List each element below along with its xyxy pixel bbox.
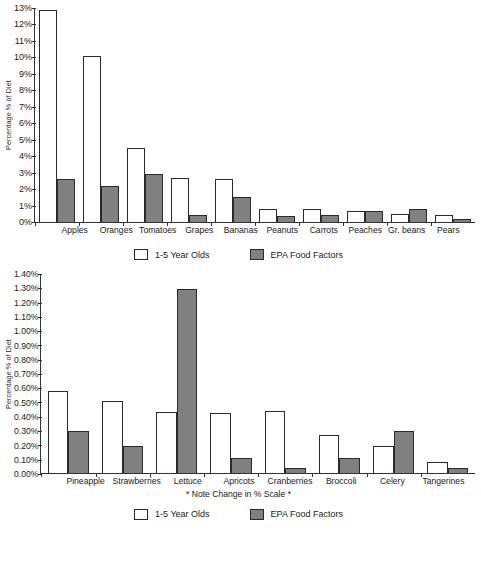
x-tick-label: Peanuts xyxy=(262,226,304,235)
scale-change-footnote: * Note Change in % Scale * xyxy=(2,489,475,499)
plot-area-top xyxy=(34,8,475,223)
bar-light xyxy=(102,401,123,473)
bar-dark xyxy=(409,209,427,222)
bar-light xyxy=(171,178,189,222)
bar-light xyxy=(303,209,321,222)
x-tick-label: Strawberries xyxy=(111,477,162,486)
x-tick-label: Gr. beans xyxy=(386,226,428,235)
bar-group xyxy=(387,8,431,222)
legend-item-light-top: 1-5 Year Olds xyxy=(134,249,210,260)
bar-group xyxy=(211,8,255,222)
x-axis-labels-top: ApplesOrangesTomatoesGrapesBananasPeanut… xyxy=(54,223,469,235)
bar-group xyxy=(96,274,150,473)
bar-light xyxy=(215,179,233,222)
bar-group xyxy=(79,8,123,222)
bar-group xyxy=(255,8,299,222)
bar-dark xyxy=(339,458,360,474)
chart-bottom-percentage-of-diet: Percentage % of Diet 1.40%1.30%1.20%1.10… xyxy=(0,260,481,519)
legend-top: 1-5 Year Olds EPA Food Factors xyxy=(2,249,475,260)
bar-dark xyxy=(285,468,306,474)
bar-dark xyxy=(233,197,251,222)
bar-dark xyxy=(448,468,469,473)
x-tick-label: Broccoli xyxy=(316,477,367,486)
bars-row-bottom xyxy=(41,274,475,473)
bar-light xyxy=(259,209,277,222)
bar-dark xyxy=(394,431,415,474)
x-tick-label: Grapes xyxy=(179,226,221,235)
legend-bottom: 1-5 Year Olds EPA Food Factors xyxy=(2,509,475,520)
bar-dark xyxy=(277,216,295,222)
bar-group xyxy=(150,274,204,473)
chart-top-percentage-of-diet: Percentage % of Diet 13%12%11%10%9%8%7%6… xyxy=(0,0,481,260)
x-tick-label: Tangerines xyxy=(418,477,469,486)
bar-light xyxy=(373,446,394,473)
x-tick-label: Apricots xyxy=(213,477,264,486)
bar-group xyxy=(299,8,343,222)
legend-swatch-dark-icon xyxy=(250,249,264,260)
legend-label-dark-top: EPA Food Factors xyxy=(271,250,343,260)
bar-light xyxy=(427,462,448,473)
legend-item-light-bottom: 1-5 Year Olds xyxy=(134,509,210,520)
bar-dark xyxy=(453,219,471,222)
bar-dark xyxy=(68,431,89,474)
bar-group xyxy=(421,274,475,473)
bar-dark xyxy=(365,211,383,222)
bar-group xyxy=(123,8,167,222)
legend-swatch-dark-icon xyxy=(250,509,264,520)
x-tick-label: Pears xyxy=(428,226,470,235)
legend-swatch-light-icon xyxy=(134,249,148,260)
plot-wrap-top: Percentage % of Diet 13%12%11%10%9%8%7%6… xyxy=(2,8,475,223)
x-tick-label: Carrots xyxy=(303,226,345,235)
y-axis-ticks-top: 13%12%11%10%9%8%7%6%5%4%3%2%1%0% xyxy=(14,8,34,223)
bar-light xyxy=(435,215,453,222)
y-axis-ticks-bottom: 1.40%1.30%1.20%1.10%1.00%0.90%0.80%0.70%… xyxy=(14,274,40,474)
bar-dark xyxy=(177,289,198,474)
legend-item-dark-bottom: EPA Food Factors xyxy=(250,509,343,520)
plot-area-bottom xyxy=(40,274,475,474)
bar-group xyxy=(35,8,79,222)
y-axis-label-top: Percentage % of Diet xyxy=(2,8,14,223)
bar-dark xyxy=(101,186,119,222)
legend-label-dark-bottom: EPA Food Factors xyxy=(271,509,343,519)
bar-dark xyxy=(321,215,339,222)
bar-light xyxy=(83,56,101,222)
legend-swatch-light-icon xyxy=(134,509,148,520)
bar-dark xyxy=(231,458,252,474)
bar-group xyxy=(167,8,211,222)
x-tick-label: Cranberries xyxy=(265,477,316,486)
bar-light xyxy=(127,148,145,222)
bar-group xyxy=(312,274,366,473)
x-tick-label: Tomatoes xyxy=(137,226,179,235)
bar-group xyxy=(343,8,387,222)
bars-row-top xyxy=(35,8,475,222)
legend-label-light-top: 1-5 Year Olds xyxy=(155,250,210,260)
bar-dark xyxy=(123,446,144,473)
bar-light xyxy=(210,413,231,473)
x-tick-label: Peaches xyxy=(345,226,387,235)
legend-item-dark-top: EPA Food Factors xyxy=(250,249,343,260)
legend-label-light-bottom: 1-5 Year Olds xyxy=(155,509,210,519)
bar-group xyxy=(41,274,95,473)
bar-light xyxy=(39,10,57,222)
bar-light xyxy=(48,391,69,473)
bar-dark xyxy=(189,215,207,222)
bar-group xyxy=(258,274,312,473)
x-tick-label: Oranges xyxy=(96,226,138,235)
bar-light xyxy=(265,411,286,474)
bar-dark xyxy=(57,179,75,222)
x-tick-label: Lettuce xyxy=(162,477,213,486)
bar-group xyxy=(204,274,258,473)
x-tick-label: Pineapple xyxy=(60,477,111,486)
bar-group xyxy=(431,8,475,222)
bar-light xyxy=(347,211,365,222)
plot-wrap-bottom: Percentage % of Diet 1.40%1.30%1.20%1.10… xyxy=(2,274,475,474)
bar-light xyxy=(391,214,409,222)
x-axis-labels-bottom: PineappleStrawberriesLettuceApricotsCran… xyxy=(60,474,469,486)
x-tick-label: Apples xyxy=(54,226,96,235)
x-tick-label: Celery xyxy=(367,477,418,486)
bar-group xyxy=(367,274,421,473)
bar-dark xyxy=(145,174,163,222)
x-tick-label: Bananas xyxy=(220,226,262,235)
bar-light xyxy=(156,412,177,473)
y-axis-label-bottom: Percentage % of Diet xyxy=(2,274,14,474)
